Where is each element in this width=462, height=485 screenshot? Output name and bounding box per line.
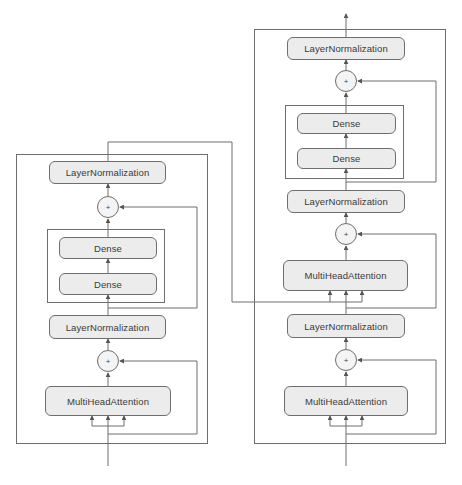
encoder-layernorm-top: LayerNormalization [49,161,166,184]
decoder-add-2: + [335,223,357,245]
decoder-cross-multihead-attention: MultiHeadAttention [283,260,408,291]
decoder-add-3: + [335,349,357,371]
encoder-dense-2: Dense [59,273,157,295]
encoder-add-top: + [97,196,119,218]
decoder-dense-1: Dense [297,113,396,134]
encoder-add-bottom: + [97,350,119,372]
decoder-layernorm-3: LayerNormalization [287,314,405,338]
decoder-layernorm-top: LayerNormalization [287,37,405,60]
encoder-multihead-attention: MultiHeadAttention [45,386,171,416]
decoder-add-top: + [335,70,357,92]
decoder-self-multihead-attention: MultiHeadAttention [284,386,408,416]
encoder-dense-1: Dense [59,237,157,259]
decoder-dense-2: Dense [297,148,396,169]
decoder-layernorm-2: LayerNormalization [287,190,405,213]
encoder-layernorm-mid: LayerNormalization [49,315,166,339]
